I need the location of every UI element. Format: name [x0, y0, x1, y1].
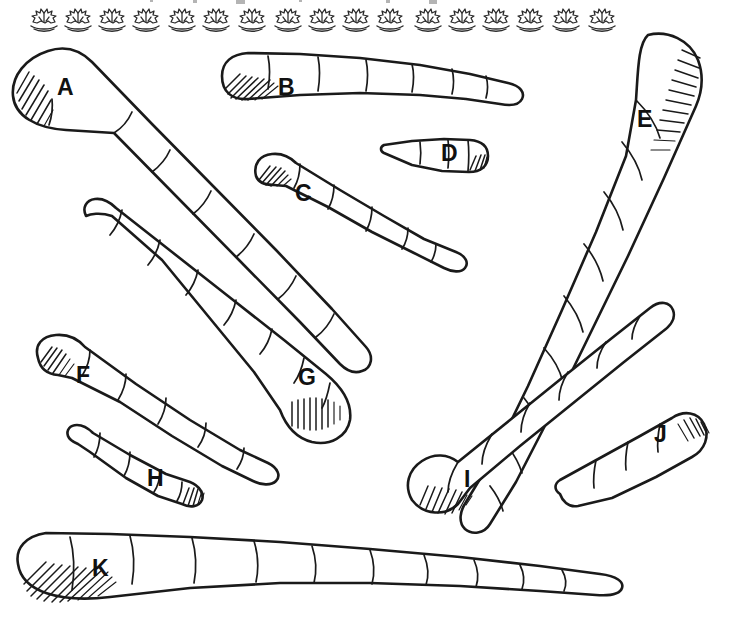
plant-sprig-icon: [203, 9, 229, 31]
specimen-b: [222, 53, 523, 105]
plant-sprig-icon: [517, 9, 543, 31]
specimen-label-i: I: [464, 468, 470, 491]
cropped-text-remnants: [150, 0, 437, 4]
plant-sprig-icon: [169, 9, 195, 31]
plant-sprig-icon: [275, 9, 301, 31]
plant-sprig-icon: [415, 9, 441, 31]
specimen-label-h: H: [147, 467, 164, 490]
plant-sprig-icon: [553, 9, 579, 31]
specimen-label-f: F: [76, 364, 90, 387]
specimen-label-c: C: [295, 182, 312, 205]
plant-sprig-icon: [65, 9, 91, 31]
plant-sprig-icon: [589, 9, 615, 31]
specimen-c: [255, 154, 466, 272]
plant-sprig-icon: [99, 9, 125, 31]
plant-sprig-icon: [309, 9, 335, 31]
specimen-label-b: B: [278, 76, 295, 99]
specimen-label-d: D: [441, 142, 458, 165]
specimen-label-e: E: [637, 108, 652, 131]
plant-sprig-icon: [31, 9, 57, 31]
specimen-j: [556, 413, 710, 506]
plant-sprig-icon: [239, 9, 265, 31]
plant-sprig-icon: [133, 9, 159, 31]
plant-sprig-icon: [343, 9, 369, 31]
plant-sprig-icon: [449, 9, 475, 31]
specimen-plate: ABCDEFGHIJK: [0, 0, 731, 617]
specimen-label-j: J: [654, 423, 667, 446]
specimen-label-g: G: [298, 366, 316, 389]
specimen-d: [381, 139, 488, 172]
decorative-plant-motif-strip: [31, 9, 615, 31]
specimen-label-a: A: [57, 76, 74, 99]
plant-sprig-icon: [377, 9, 403, 31]
plate-artwork: [0, 0, 731, 617]
plant-sprig-icon: [483, 9, 509, 31]
specimen-label-k: K: [92, 557, 109, 580]
